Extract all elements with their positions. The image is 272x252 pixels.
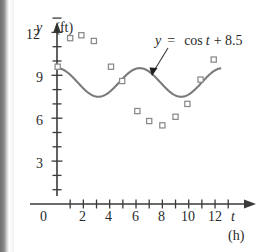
origin-label: 0 [40,209,47,225]
x-tick-label-10: 10 [181,209,195,225]
x-tick-label-2: 2 [79,209,86,225]
data-point-11 [198,77,203,82]
data-point-12 [211,57,216,62]
equation-cos: cos [184,33,203,48]
equation-variable: t [206,33,210,48]
axes-group [30,22,256,209]
x-axis-variable: t [231,209,235,225]
x-axis-unit: (h) [228,228,244,244]
figure-canvas: y(ft) 12 9 6 3 0 2 4 6 8 10 12 t (h) y=c… [0,0,272,252]
y-tick-label-12: 12 [26,27,40,43]
equation-annotation: y=cost+ 8.5 [155,33,243,49]
data-point-4 [108,64,113,69]
equation-tail: + 8.5 [214,33,243,48]
cosine-fit-curve [57,68,220,97]
data-point-3 [91,38,96,43]
data-point-9 [173,114,178,119]
data-point-5 [120,78,125,83]
y-tick-label-9: 9 [36,70,43,86]
x-axis-arrowhead [244,200,256,209]
data-point-2 [79,33,84,38]
data-point-10 [185,101,190,106]
data-point-7 [147,118,152,123]
y-axis-unit: (ft) [55,20,73,35]
x-tick-label-6: 6 [132,209,139,225]
data-point-6 [135,108,140,113]
equation-equals: = [167,33,175,48]
equation-callout-arrow [150,48,169,76]
x-tick-label-12: 12 [208,209,222,225]
y-tick-label-6: 6 [36,113,43,129]
data-point-0 [55,64,60,69]
data-point-1 [68,36,73,41]
y-tick-label-3: 3 [36,156,43,172]
data-point-8 [160,123,165,128]
x-tick-label-8: 8 [158,209,165,225]
equation-lhs: y [155,33,161,48]
x-tick-label-4: 4 [105,209,112,225]
y-axis-title: y(ft) [36,20,73,36]
